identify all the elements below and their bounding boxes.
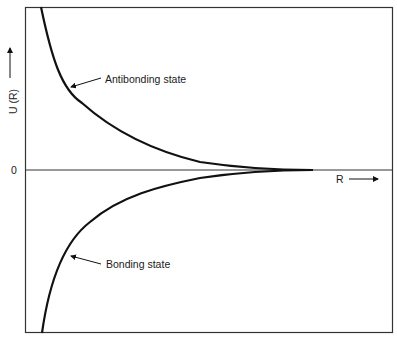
zero-tick-label: 0 xyxy=(11,164,17,176)
antibonding-pointer-arrow-icon xyxy=(71,78,101,87)
y-axis-label: U (R) xyxy=(7,89,19,114)
antibonding-label: Antibonding state xyxy=(105,73,186,85)
antibonding-curve xyxy=(41,7,313,170)
bonding-pointer-arrow-icon xyxy=(71,256,101,264)
bonding-curve xyxy=(42,170,313,333)
x-axis-label: R xyxy=(336,173,344,185)
potential-energy-diagram: 0 U (R) R Antibonding state Bonding stat… xyxy=(0,0,397,337)
bonding-label: Bonding state xyxy=(106,258,170,270)
